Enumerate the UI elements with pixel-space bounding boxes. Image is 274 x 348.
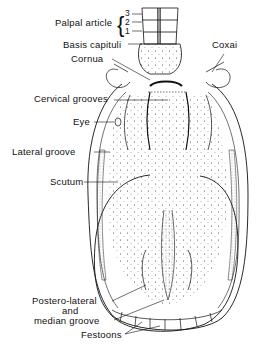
palpal-number-1: 1 [125,27,130,36]
label-cornua: Cornua [71,54,103,64]
capitulum [138,8,181,74]
label-eye: Eye [73,117,90,127]
label-cervical-grooves: Cervical grooves [34,94,108,104]
festoons [112,310,222,330]
label-lateral-groove: Lateral groove [12,147,76,157]
label-palpal-article: Palpal article [55,18,112,28]
label-basis-capituli: Basis capituli [63,40,121,50]
brace-icon: { [117,12,125,38]
label-scutum: Scutum [50,177,83,187]
tick-diagram: Palpal article { 3 2 1 Basis capituli Co… [0,0,274,348]
label-median-groove: median groove [34,316,99,326]
label-festoons: Festoons [81,330,122,340]
label-coxai: Coxai [212,40,237,50]
